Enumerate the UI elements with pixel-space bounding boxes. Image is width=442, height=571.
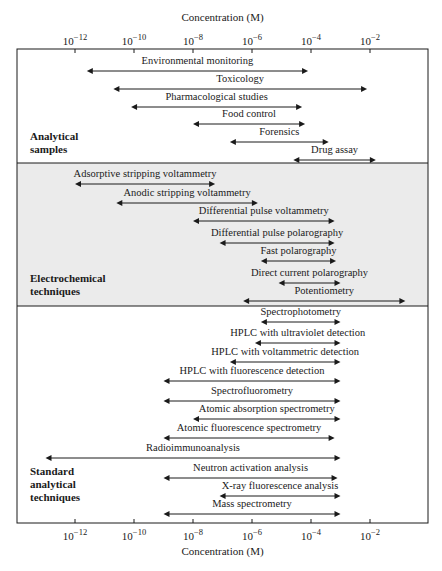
arrow-left-icon — [113, 86, 119, 92]
arrow-left-icon — [193, 121, 199, 127]
arrow-right-icon — [335, 359, 341, 365]
range-item: Differential pulse polarography — [211, 227, 344, 246]
range-item: Radioimmunoanalysis — [46, 442, 341, 461]
range-label: Potentiometry — [295, 285, 355, 296]
arrow-left-icon — [164, 435, 170, 441]
range-item: Differential pulse voltammetry — [193, 205, 335, 224]
range-label: Spectrofluorometry — [211, 385, 294, 396]
tick-label: 10−4 — [301, 32, 322, 47]
range-label: Neutron activation analysis — [193, 462, 308, 473]
tick-label: 10−10 — [122, 32, 146, 47]
range-item: HPLC with fluorescence detection — [164, 365, 341, 384]
range-item: Mass spectrometry — [164, 498, 341, 517]
arrow-right-icon — [335, 378, 341, 384]
arrow-left-icon — [164, 475, 170, 481]
range-item: Spectrofluorometry — [164, 385, 341, 404]
x-axis-title: Concentration (M) — [181, 545, 264, 558]
range-label: HPLC with ultraviolet detection — [230, 327, 366, 338]
tick-label: 10−2 — [360, 527, 380, 542]
group-label: techniques — [30, 491, 81, 503]
range-label: Spectrophotometry — [260, 306, 341, 317]
range-label: Atomic fluorescence spectrometry — [177, 422, 322, 433]
arrow-right-icon — [335, 398, 341, 404]
arrow-right-icon — [335, 455, 341, 461]
top-x-axis: 10−1210−1010−810−610−410−2Concentration … — [63, 11, 380, 53]
group-label: Standard — [30, 465, 74, 477]
range-item: Atomic absorption spectrometry — [193, 403, 341, 422]
tick-label: 10−2 — [360, 32, 380, 47]
range-item: Environmental monitoring — [87, 55, 308, 74]
group-label: analytical — [30, 478, 76, 490]
arrow-left-icon — [261, 319, 267, 325]
arrow-right-icon — [361, 86, 367, 92]
arrow-right-icon — [302, 68, 308, 74]
range-label: Mass spectrometry — [212, 498, 292, 509]
tick-label: 10−6 — [242, 527, 262, 542]
tick-label: 10−4 — [301, 527, 322, 542]
group-label: Electrochemical — [30, 272, 106, 284]
range-item: Anodic stripping voltammetry — [116, 187, 258, 206]
range-item: Neutron activation analysis — [164, 462, 338, 481]
range-item: Spectrophotometry — [260, 306, 341, 325]
group-label: techniques — [30, 285, 81, 297]
arrow-right-icon — [335, 493, 341, 499]
range-item: Adsorptive stripping voltammetry — [74, 168, 218, 187]
tick-label: 10−8 — [183, 527, 203, 542]
range-label: Toxicology — [216, 73, 264, 84]
range-label: Direct current polarography — [251, 267, 369, 278]
arrow-left-icon — [164, 378, 170, 384]
arrow-right-icon — [329, 435, 335, 441]
tick-label: 10−6 — [242, 32, 262, 47]
arrow-right-icon — [299, 121, 305, 127]
range-item: X-ray fluorescence analysis — [220, 480, 341, 499]
range-item: Pharmacological studies — [131, 91, 302, 110]
range-label: Fast polarography — [260, 245, 337, 256]
range-item: Food control — [193, 108, 305, 127]
range-label: Food control — [222, 108, 276, 119]
range-label: Differential pulse voltammetry — [199, 205, 330, 216]
range-label: Pharmacological studies — [165, 91, 267, 102]
range-item: Fast polarography — [260, 245, 337, 264]
range-item: HPLC with ultraviolet detection — [230, 327, 366, 346]
range-item: Toxicology — [113, 73, 367, 92]
range-label: Differential pulse polarography — [211, 227, 344, 238]
x-axis-title: Concentration (M) — [181, 11, 264, 24]
range-label: Radioimmunoanalysis — [146, 442, 240, 453]
tick-label: 10−12 — [63, 527, 87, 542]
arrow-right-icon — [335, 416, 341, 422]
arrow-left-icon — [46, 455, 52, 461]
tick-label: 10−8 — [183, 32, 203, 47]
arrow-left-icon — [230, 139, 236, 145]
range-label: Environmental monitoring — [142, 55, 254, 66]
arrow-right-icon — [335, 319, 341, 325]
range-label: Drug assay — [311, 144, 359, 155]
range-label: Adsorptive stripping voltammetry — [74, 168, 218, 179]
bottom-x-axis: 10−1210−1010−810−610−410−2Concentration … — [63, 519, 380, 558]
range-label: X-ray fluorescence analysis — [222, 480, 339, 491]
tick-label: 10−10 — [122, 527, 146, 542]
arrow-left-icon — [164, 398, 170, 404]
range-label: HPLC with fluorescence detection — [180, 365, 326, 376]
group-label: samples — [30, 143, 68, 155]
range-label: Atomic absorption spectrometry — [199, 403, 336, 414]
arrow-right-icon — [296, 104, 302, 110]
range-label: Anodic stripping voltammetry — [124, 187, 252, 198]
arrow-left-icon — [131, 104, 137, 110]
group-label: Analytical — [30, 130, 78, 142]
range-item: Drug assay — [293, 144, 376, 163]
arrow-right-icon — [335, 511, 341, 517]
range-item: Forensics — [230, 126, 329, 145]
arrow-left-icon — [293, 157, 299, 163]
arrow-left-icon — [87, 68, 93, 74]
range-item: Atomic fluorescence spectrometry — [164, 422, 335, 441]
range-label: Forensics — [259, 126, 299, 137]
arrow-left-icon — [164, 511, 170, 517]
range-item: HPLC with voltammetric detection — [211, 346, 360, 365]
arrow-right-icon — [370, 157, 376, 163]
range-label: HPLC with voltammetric detection — [211, 346, 360, 357]
tick-label: 10−12 — [63, 32, 87, 47]
concentration-range-chart: 10−1210−1010−810−610−410−2Concentration … — [0, 0, 442, 571]
